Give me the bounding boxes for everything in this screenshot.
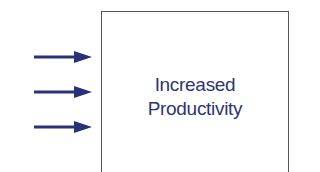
input-arrow-2 (34, 86, 92, 98)
outcome-label-line2: Productivity (102, 97, 288, 121)
outcome-label: Increased Productivity (102, 73, 288, 121)
outcome-box: Increased Productivity (101, 11, 289, 172)
input-arrow-3 (34, 121, 92, 133)
outcome-label-line1: Increased (102, 73, 288, 97)
input-arrow-1 (34, 51, 92, 63)
